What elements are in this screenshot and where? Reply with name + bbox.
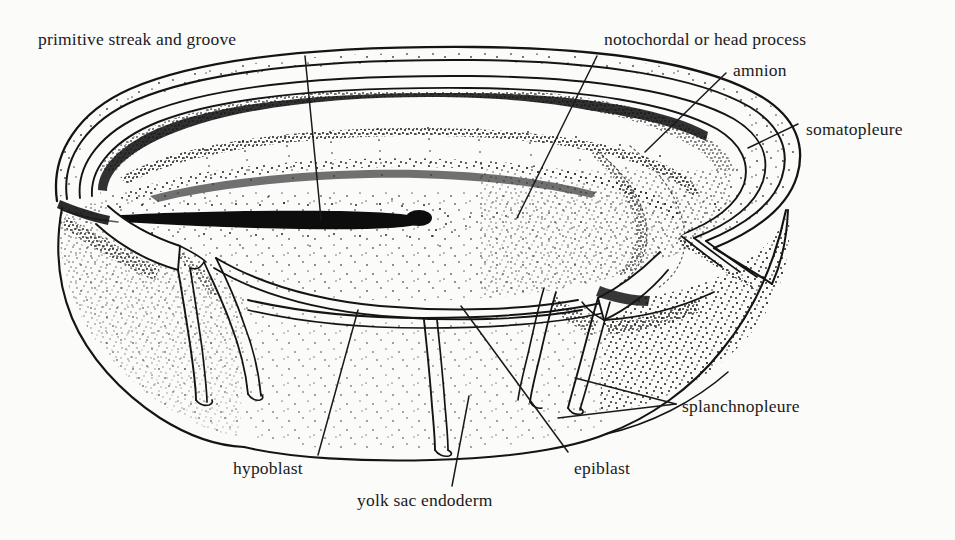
figure-page: primitive streak and groove notochordal … xyxy=(0,0,955,540)
label-yolk-sac-endoderm: yolk sac endoderm xyxy=(357,490,493,511)
label-notochordal-process: notochordal or head process xyxy=(604,29,806,50)
label-primitive-streak: primitive streak and groove xyxy=(38,29,236,50)
label-amnion: amnion xyxy=(733,60,787,81)
label-somatopleure: somatopleure xyxy=(806,119,903,140)
label-hypoblast: hypoblast xyxy=(233,458,303,479)
label-splanchnopleure: splanchnopleure xyxy=(682,396,800,417)
label-epiblast: epiblast xyxy=(574,458,630,479)
embryo-diagram xyxy=(0,0,955,540)
